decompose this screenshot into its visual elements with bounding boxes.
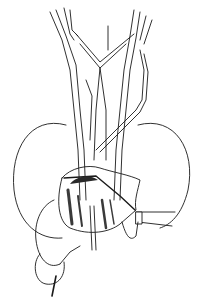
retractor	[122, 212, 175, 238]
illustration-canvas	[0, 0, 201, 299]
anatomy-illustration	[0, 0, 201, 299]
vessels	[50, 8, 152, 200]
dissection	[59, 166, 140, 250]
bowel	[35, 200, 80, 296]
